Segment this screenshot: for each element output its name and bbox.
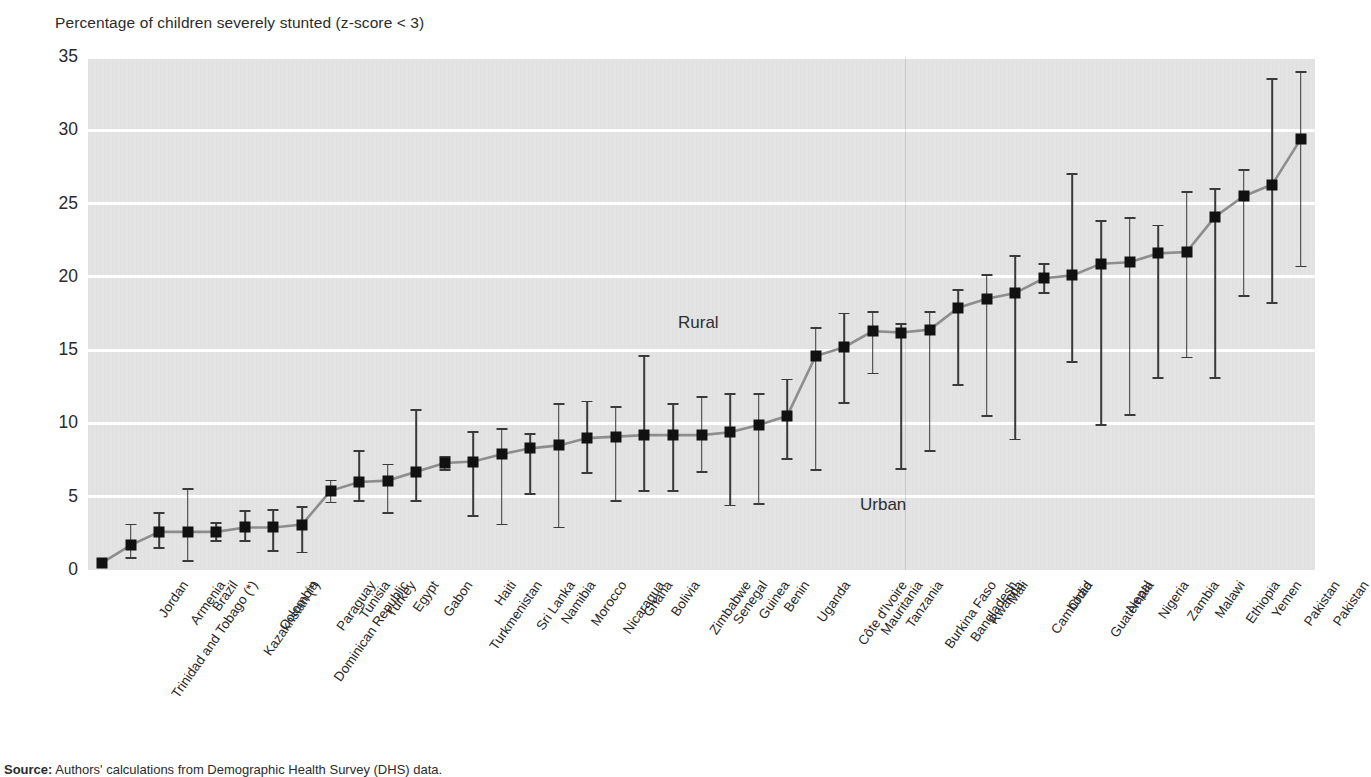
error-bar-cap-lower	[1124, 414, 1135, 416]
x-axis-label: Chad	[1065, 578, 1096, 613]
error-bar	[615, 407, 617, 501]
error-bar	[1300, 72, 1302, 267]
data-point-marker[interactable]	[696, 430, 707, 441]
error-bar-cap-upper	[953, 289, 964, 291]
data-point-marker[interactable]	[639, 430, 650, 441]
error-bar	[415, 410, 417, 501]
error-bar-cap-lower	[753, 503, 764, 505]
data-point-marker[interactable]	[439, 458, 450, 469]
data-point-marker[interactable]	[1210, 211, 1221, 222]
error-bar-cap-upper	[239, 510, 250, 512]
error-bar-cap-lower	[1153, 377, 1164, 379]
error-bar-cap-lower	[496, 524, 507, 526]
data-point-marker[interactable]	[896, 327, 907, 338]
error-bar	[843, 314, 845, 403]
error-bar	[387, 464, 389, 512]
data-point-marker[interactable]	[667, 430, 678, 441]
data-point-marker[interactable]	[1095, 258, 1106, 269]
data-point-marker[interactable]	[1181, 246, 1192, 257]
error-bar-cap-lower	[125, 557, 136, 559]
error-bar-cap-upper	[525, 433, 536, 435]
data-point-marker[interactable]	[1038, 273, 1049, 284]
x-axis-label-text: Bolivia	[668, 578, 703, 619]
error-bar	[1072, 174, 1074, 362]
source-note: Source: Authors' calculations from Demog…	[4, 762, 442, 777]
data-point-marker[interactable]	[1124, 257, 1135, 268]
error-bar	[729, 394, 731, 505]
x-axis-label: Gabon	[440, 578, 475, 620]
error-bar	[1100, 221, 1102, 425]
data-point-marker[interactable]	[1067, 270, 1078, 281]
data-point-marker[interactable]	[953, 302, 964, 313]
error-bar-cap-upper	[297, 506, 308, 508]
data-point-marker[interactable]	[981, 293, 992, 304]
error-bar-cap-lower	[725, 505, 736, 507]
data-point-marker[interactable]	[1010, 287, 1021, 298]
error-bar-cap-lower	[211, 540, 222, 542]
data-point-marker[interactable]	[610, 431, 621, 442]
error-bar-cap-lower	[239, 540, 250, 542]
error-bar-cap-upper	[1267, 78, 1278, 80]
error-bar	[1015, 256, 1017, 439]
error-bar-cap-upper	[839, 313, 850, 315]
error-bar-cap-lower	[297, 552, 308, 554]
data-point-marker[interactable]	[867, 326, 878, 337]
error-bar-cap-upper	[211, 522, 222, 524]
data-point-marker[interactable]	[239, 522, 250, 533]
y-axis-tick-35: 35	[18, 48, 78, 66]
error-bar-cap-upper	[553, 403, 564, 405]
data-point-marker[interactable]	[97, 557, 108, 568]
data-point-marker[interactable]	[1267, 179, 1278, 190]
error-bar-cap-upper	[268, 509, 279, 511]
error-bar-cap-upper	[782, 379, 793, 381]
error-bar-cap-upper	[125, 524, 136, 526]
error-bar-cap-upper	[382, 464, 393, 466]
data-point-marker[interactable]	[1153, 248, 1164, 259]
data-point-marker[interactable]	[468, 456, 479, 467]
error-bar	[900, 324, 902, 469]
error-bar-cap-lower	[553, 527, 564, 529]
data-point-marker[interactable]	[382, 475, 393, 486]
data-point-marker[interactable]	[125, 540, 136, 551]
data-point-marker[interactable]	[354, 477, 365, 488]
data-point-marker[interactable]	[839, 342, 850, 353]
source-text: Authors' calculations from Demographic H…	[52, 762, 442, 777]
data-point-marker[interactable]	[582, 433, 593, 444]
data-point-marker[interactable]	[525, 443, 536, 454]
x-axis-label-text: Nepal	[1123, 578, 1155, 615]
plot-area: Rural Urban	[88, 57, 1315, 570]
error-bar-cap-upper	[1153, 225, 1164, 227]
error-bar	[872, 312, 874, 374]
data-point-marker[interactable]	[411, 466, 422, 477]
data-point-marker[interactable]	[182, 526, 193, 537]
data-point-marker[interactable]	[211, 526, 222, 537]
error-bar-cap-lower	[154, 547, 165, 549]
x-axis-label-text: Colombia	[276, 578, 321, 633]
data-point-marker[interactable]	[325, 485, 336, 496]
y-axis-tick-0: 0	[18, 561, 78, 579]
data-point-marker[interactable]	[297, 519, 308, 530]
data-point-marker[interactable]	[1238, 191, 1249, 202]
data-point-marker[interactable]	[924, 324, 935, 335]
error-bar-cap-upper	[1124, 217, 1135, 219]
data-point-marker[interactable]	[154, 526, 165, 537]
data-point-marker[interactable]	[725, 427, 736, 438]
data-point-marker[interactable]	[753, 419, 764, 430]
error-bar	[1129, 218, 1131, 414]
data-point-marker[interactable]	[1295, 134, 1306, 145]
data-point-marker[interactable]	[496, 449, 507, 460]
data-point-marker[interactable]	[810, 351, 821, 362]
error-bar-cap-lower	[439, 469, 450, 471]
y-axis-tick-20: 20	[18, 268, 78, 286]
error-bar-cap-upper	[1181, 191, 1192, 193]
error-bar-cap-lower	[468, 515, 479, 517]
data-point-marker[interactable]	[553, 440, 564, 451]
y-axis-tick-10: 10	[18, 414, 78, 432]
error-bar-cap-upper	[468, 431, 479, 433]
error-bar-cap-upper	[1010, 255, 1021, 257]
data-point-marker[interactable]	[782, 411, 793, 422]
error-bar-cap-lower	[382, 512, 393, 514]
error-bar-cap-lower	[696, 471, 707, 473]
data-point-marker[interactable]	[268, 522, 279, 533]
